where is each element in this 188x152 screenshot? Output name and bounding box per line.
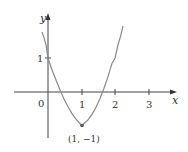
y-tick-label-1: 1 [37, 53, 43, 64]
y-axis-arrow-icon [46, 13, 51, 20]
origin-label: 0 [38, 98, 44, 109]
vertex-label: (1, −1) [68, 134, 100, 144]
x-axis-label: x [172, 94, 179, 107]
x-tick-label-2: 2 [112, 99, 118, 110]
y-axis-label: y [39, 12, 47, 25]
x-tick-label-1: 1 [79, 99, 85, 110]
parabola-curve [42, 26, 123, 126]
x-tick-label-3: 3 [146, 99, 152, 110]
vertex-point [80, 124, 84, 128]
parabola-plot: y x 0 1 2 3 1 (1, −1) [0, 0, 188, 152]
